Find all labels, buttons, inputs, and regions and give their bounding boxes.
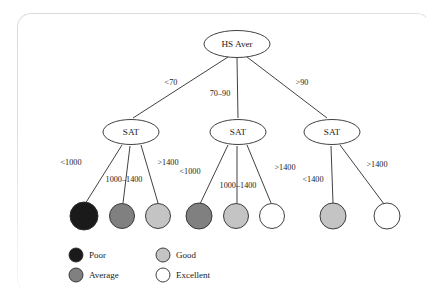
legend-swatch-good (156, 248, 170, 262)
legend-swatch-poor (69, 248, 83, 262)
legend: Poor Average Good Excellent (69, 248, 210, 282)
decision-tree-canvas: HS Aver <70 70–90 >90 SAT SAT SAT <1000 … (0, 0, 437, 301)
legend-label-average: Average (89, 270, 119, 280)
right-leaves-group (320, 203, 400, 229)
edge-label-left-gt1400: >1400 (158, 158, 179, 167)
node-sat-right[interactable]: SAT (304, 120, 360, 145)
edge-label-right-gt1400: >1400 (367, 160, 388, 169)
legend-swatch-average (69, 268, 83, 282)
root-edges-group (133, 57, 327, 118)
sat-left-node-label: SAT (123, 127, 140, 137)
edge-label-70-90: 70–90 (210, 89, 230, 98)
left-leaves-group (70, 202, 171, 230)
edge-sat-middle-to-leaf-6 (247, 145, 271, 203)
leaf-node-excellent-middle[interactable] (260, 204, 285, 229)
edge-root-to-sat-right (247, 57, 327, 118)
leaf-node-good-left[interactable] (146, 204, 171, 229)
edge-label-left-lt1000: <1000 (61, 158, 82, 167)
edge-root-to-sat-middle (237, 58, 238, 118)
leaf-node-good-middle[interactable] (224, 204, 249, 229)
middle-leaves-group (186, 203, 285, 229)
leaf-node-average-left[interactable] (110, 204, 135, 229)
decision-tree-figure: HS Aver <70 70–90 >90 SAT SAT SAT <1000 … (0, 0, 437, 301)
leaf-node-excellent-right[interactable] (374, 203, 400, 229)
leaf-node-good-right[interactable] (320, 203, 346, 229)
edge-label-lt70: <70 (165, 78, 178, 87)
sat-right-node-label: SAT (324, 127, 341, 137)
edge-sat-right-to-leaf-8 (340, 145, 384, 204)
edge-sat-middle-to-leaf-4 (200, 145, 228, 204)
right-subtree-edges-group (331, 145, 384, 204)
sat-middle-node-label: SAT (230, 127, 247, 137)
legend-item-average: Average (69, 268, 119, 282)
node-root[interactable]: HS Aver (204, 31, 270, 58)
edge-root-to-sat-left (133, 57, 228, 118)
edge-label-middle-gt1400: >1400 (275, 163, 296, 172)
legend-item-poor: Poor (69, 248, 106, 262)
legend-label-good: Good (176, 250, 196, 260)
legend-label-poor: Poor (89, 250, 106, 260)
node-sat-middle[interactable]: SAT (210, 120, 266, 145)
edge-label-middle-1000-1400: 1000–1400 (220, 181, 257, 190)
legend-item-excellent: Excellent (156, 268, 210, 282)
edge-label-gt90: >90 (296, 78, 309, 87)
node-sat-left[interactable]: SAT (103, 120, 159, 145)
legend-item-good: Good (156, 248, 196, 262)
edge-sat-left-to-leaf-3 (141, 145, 158, 203)
edge-sat-right-to-leaf-7 (331, 146, 333, 203)
edge-label-middle-lt1000: <1000 (180, 167, 201, 176)
edge-label-right-lt1400: <1400 (303, 175, 324, 184)
legend-label-excellent: Excellent (176, 270, 210, 280)
middle-subtree-edges-group (200, 145, 271, 204)
edge-label-left-1000-1400: 1000–1400 (106, 175, 143, 184)
leaf-node-average-middle[interactable] (186, 203, 212, 229)
leaf-node-poor-left[interactable] (70, 202, 98, 230)
root-node-label: HS Aver (221, 39, 252, 49)
legend-swatch-excellent (156, 268, 170, 282)
